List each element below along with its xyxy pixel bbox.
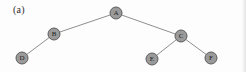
node-c[interactable]: C xyxy=(175,30,187,42)
edge-a-c xyxy=(122,15,176,34)
node-circle-a xyxy=(110,7,122,19)
edge-a-b xyxy=(60,15,111,32)
node-d[interactable]: D xyxy=(16,52,28,64)
node-e[interactable]: E xyxy=(146,53,158,65)
node-circle-b xyxy=(48,28,60,40)
node-circle-c xyxy=(175,30,187,42)
edge-b-d xyxy=(27,38,49,55)
node-circle-e xyxy=(146,53,158,65)
nodes-layer: ABCDEF xyxy=(16,7,217,65)
node-circle-d xyxy=(16,52,28,64)
figure-panel: (a) ABCDEF xyxy=(0,0,246,72)
tree-diagram: ABCDEF xyxy=(0,0,246,72)
edge-c-e xyxy=(157,40,177,56)
node-b[interactable]: B xyxy=(48,28,60,40)
node-a[interactable]: A xyxy=(110,7,122,19)
node-f[interactable]: F xyxy=(205,52,217,64)
edge-c-f xyxy=(186,40,206,55)
node-circle-f xyxy=(205,52,217,64)
